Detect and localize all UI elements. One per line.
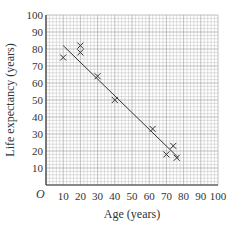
y-tick-label: 10 bbox=[32, 162, 44, 174]
y-tick-label: 60 bbox=[32, 77, 44, 89]
x-tick-label: 50 bbox=[127, 190, 139, 202]
x-tick-label: 70 bbox=[161, 190, 173, 202]
x-tick-label: 30 bbox=[92, 190, 104, 202]
y-tick-label: 50 bbox=[32, 94, 44, 106]
y-tick-label: 40 bbox=[32, 111, 44, 123]
origin-label: O bbox=[36, 187, 45, 201]
y-tick-label: 70 bbox=[32, 60, 44, 72]
x-tick-label: 100 bbox=[210, 190, 227, 202]
y-tick-label: 20 bbox=[32, 145, 44, 157]
y-tick-label: 90 bbox=[32, 26, 44, 38]
y-axis-label: Life expectancy (years) bbox=[3, 43, 17, 156]
y-tick-label: 80 bbox=[32, 43, 44, 55]
x-tick-label: 10 bbox=[58, 190, 70, 202]
x-tick-label: 80 bbox=[178, 190, 190, 202]
y-tick-label: 100 bbox=[27, 9, 44, 21]
scatter-chart: 1020304050607080901001020304050607080901… bbox=[0, 0, 241, 226]
x-tick-label: 20 bbox=[75, 190, 87, 202]
x-tick-label: 60 bbox=[144, 190, 156, 202]
x-tick-label: 40 bbox=[109, 190, 121, 202]
x-axis-label: Age (years) bbox=[104, 207, 160, 221]
y-tick-label: 30 bbox=[32, 128, 44, 140]
x-tick-label: 90 bbox=[195, 190, 207, 202]
